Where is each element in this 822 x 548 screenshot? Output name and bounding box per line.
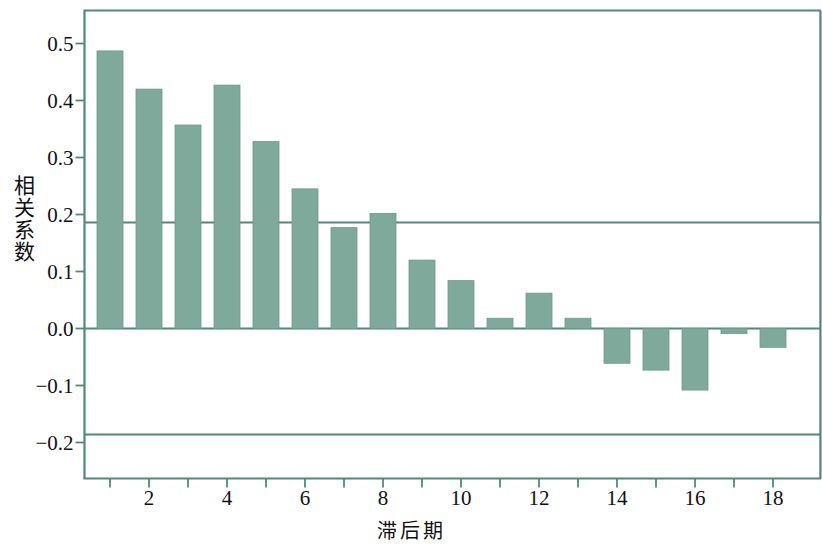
autocorrelation-bar-chart: 0.50.40.30.20.10.0−0.1−0.2 2468101214161… xyxy=(0,0,822,548)
x-tick-label: 14 xyxy=(597,486,637,511)
x-tick-label: 10 xyxy=(441,486,481,511)
x-tick-label: 4 xyxy=(207,486,247,511)
x-tick-label: 2 xyxy=(129,486,169,511)
y-axis-title: 相关系数 xyxy=(4,175,38,263)
x-tick-label: 6 xyxy=(285,486,325,511)
x-tick-label: 18 xyxy=(753,486,793,511)
x-axis-tick-labels: 24681012141618 xyxy=(0,0,822,548)
x-axis-title: 滞后期 xyxy=(0,515,822,544)
x-tick-label: 16 xyxy=(675,486,715,511)
x-tick-label: 8 xyxy=(363,486,403,511)
x-tick-label: 12 xyxy=(519,486,559,511)
